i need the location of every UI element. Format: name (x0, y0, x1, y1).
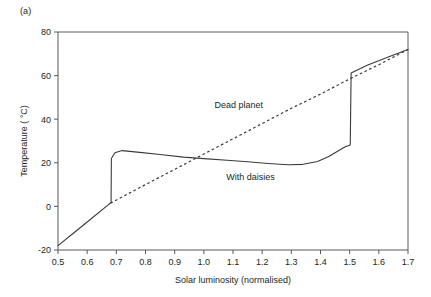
y-axis-title: Temperature ( °C) (19, 105, 29, 177)
x-tick-label: 0.9 (168, 257, 181, 267)
x-axis-title: Solar luminosity (normalised) (175, 275, 291, 285)
y-axis-ticks: -20020406080 (38, 27, 58, 255)
y-tick-label: -20 (38, 245, 51, 255)
figure-container: (a) 0.50.60.70.80.91.01.11.21.31.41.51.6… (0, 0, 431, 297)
chart-plot: 0.50.60.70.80.91.01.11.21.31.41.51.61.7 … (0, 0, 431, 297)
x-tick-label: 1.1 (227, 257, 240, 267)
axis-frame (58, 32, 408, 250)
y-tick-label: 60 (41, 71, 51, 81)
x-tick-label: 1.5 (343, 257, 356, 267)
x-axis-ticks: 0.50.60.70.80.91.01.11.21.31.41.51.61.7 (52, 250, 415, 267)
plot-frame (58, 32, 408, 250)
x-tick-label: 0.5 (52, 257, 65, 267)
x-tick-label: 0.8 (139, 257, 152, 267)
x-tick-label: 1.6 (373, 257, 386, 267)
series-annotation: With daisies (226, 172, 275, 182)
x-tick-label: 0.7 (110, 257, 123, 267)
x-tick-label: 0.6 (81, 257, 94, 267)
y-tick-label: 20 (41, 158, 51, 168)
series-with-daisies (58, 49, 408, 245)
x-tick-label: 1.3 (285, 257, 298, 267)
y-tick-label: 80 (41, 27, 51, 37)
x-tick-label: 1.0 (198, 257, 211, 267)
x-tick-label: 1.7 (402, 257, 415, 267)
x-tick-label: 1.4 (314, 257, 327, 267)
annotation-layer: Dead planetWith daisies (215, 100, 276, 182)
data-series-layer (58, 49, 408, 245)
series-annotation: Dead planet (215, 100, 264, 110)
y-tick-label: 40 (41, 115, 51, 125)
x-tick-label: 1.2 (256, 257, 269, 267)
y-tick-label: 0 (46, 202, 51, 212)
